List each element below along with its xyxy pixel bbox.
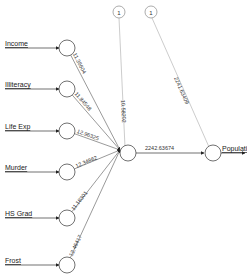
output-label: Population (222, 145, 247, 153)
input-weight-3: 12.34862 (74, 155, 97, 169)
input-node-3 (59, 164, 75, 180)
input-node-5 (59, 257, 75, 273)
hidden-node (120, 145, 136, 161)
bias2-weight: 2241.63409 (173, 76, 190, 105)
input-label-5: Frost (5, 257, 21, 264)
input-label-0: Income (5, 40, 28, 47)
input-weight-0: 11.36604 (72, 52, 88, 75)
input-weight-1: 11.84548 (73, 91, 92, 112)
input-label-3: Murder (5, 164, 28, 171)
input-weight-2: 12.96325 (76, 128, 100, 141)
input-weight-5: 12.46417 (68, 234, 83, 257)
bias1-edge (119, 18, 125, 147)
neural-network-diagram: Income11.36604Illiteracy11.84548Life Exp… (0, 0, 247, 280)
input-node-2 (59, 123, 75, 139)
input-weight-4: 11.18301 (70, 190, 89, 211)
input-label-4: HS Grad (5, 210, 32, 217)
input-label-1: Illiteracy (5, 81, 31, 89)
bias1-weight: 10.58202 (120, 100, 127, 123)
input-layer: Income11.36604Illiteracy11.84548Life Exp… (5, 40, 120, 273)
input-label-2: Life Exp (5, 123, 30, 131)
input-node-4 (59, 210, 75, 226)
output-node (205, 145, 221, 161)
input-node-1 (59, 81, 75, 97)
hidden-output-weight: 2242.63674 (145, 145, 174, 151)
